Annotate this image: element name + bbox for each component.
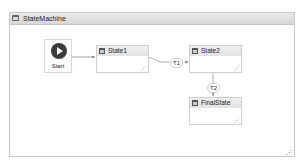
state-icon bbox=[192, 100, 198, 106]
state-label: State1 bbox=[108, 47, 127, 55]
state-label: State2 bbox=[201, 47, 220, 55]
connector-lines bbox=[0, 0, 302, 163]
start-label: Start bbox=[45, 63, 71, 69]
play-icon bbox=[51, 43, 67, 59]
state-header: FinalState bbox=[190, 98, 241, 108]
state-icon bbox=[99, 48, 105, 54]
state-icon bbox=[192, 48, 198, 54]
resize-grip-icon[interactable]: ⋰ bbox=[234, 117, 239, 123]
arrowhead bbox=[92, 56, 95, 59]
state-header: State1 bbox=[97, 46, 148, 56]
resize-grip-icon[interactable]: ⋰ bbox=[141, 65, 146, 71]
t1-connector[interactable] bbox=[149, 57, 170, 62]
transition-label-t2[interactable]: T2 bbox=[207, 83, 220, 93]
transition-label-t1[interactable]: T1 bbox=[170, 58, 183, 68]
state-label: FinalState bbox=[201, 99, 230, 107]
state-node-finalstate[interactable]: FinalState ⋰ bbox=[189, 97, 242, 125]
resize-grip-icon[interactable]: ⋰ bbox=[234, 65, 239, 71]
state-node-state1[interactable]: State1 ⋰ bbox=[96, 45, 149, 73]
start-node[interactable]: Start bbox=[44, 39, 72, 73]
state-node-state2[interactable]: State2 ⋰ bbox=[189, 45, 242, 73]
state-header: State2 bbox=[190, 46, 241, 56]
